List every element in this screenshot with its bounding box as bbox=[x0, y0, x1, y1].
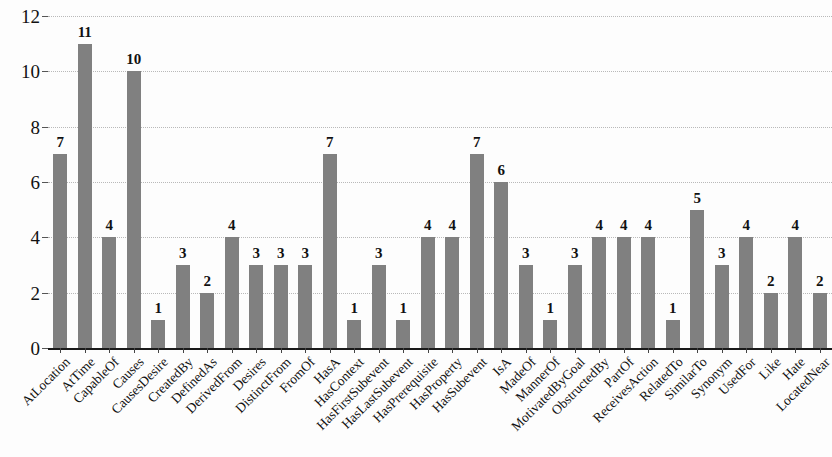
x-axis-tick-mark bbox=[550, 348, 551, 353]
bar[interactable] bbox=[53, 154, 67, 348]
bar-value-label: 1 bbox=[546, 301, 554, 316]
bar-value-label: 2 bbox=[816, 274, 824, 289]
bar[interactable] bbox=[200, 293, 214, 348]
plot-area: 024681012 711410132433371314476313444153… bbox=[48, 16, 832, 348]
bar[interactable] bbox=[249, 265, 263, 348]
x-axis-tick-mark bbox=[820, 348, 821, 353]
bar[interactable] bbox=[151, 320, 165, 348]
x-axis-tick-mark bbox=[134, 348, 135, 353]
x-axis-tick-mark bbox=[85, 348, 86, 353]
x-axis-tick-mark bbox=[330, 348, 331, 353]
bar[interactable] bbox=[543, 320, 557, 348]
y-axis-tick-label: 2 bbox=[0, 284, 40, 303]
bar-slot: 4 bbox=[102, 16, 116, 348]
bar[interactable] bbox=[519, 265, 533, 348]
bar[interactable] bbox=[372, 265, 386, 348]
y-axis-tick-label: 4 bbox=[0, 228, 40, 247]
x-axis-tick-mark bbox=[673, 348, 674, 353]
bar[interactable] bbox=[739, 237, 753, 348]
bar-slot: 3 bbox=[568, 16, 582, 348]
bar-value-label: 4 bbox=[644, 218, 652, 233]
bar-slot: 4 bbox=[445, 16, 459, 348]
bar[interactable] bbox=[102, 237, 116, 348]
x-axis-tick-mark bbox=[477, 348, 478, 353]
x-axis-tick-mark bbox=[771, 348, 772, 353]
bar-slot: 2 bbox=[200, 16, 214, 348]
bar-slot: 4 bbox=[641, 16, 655, 348]
bar[interactable] bbox=[788, 237, 802, 348]
x-axis-tick-mark bbox=[183, 348, 184, 353]
bar-slot: 3 bbox=[298, 16, 312, 348]
bar[interactable] bbox=[445, 237, 459, 348]
bar[interactable] bbox=[592, 237, 606, 348]
bar-slot: 11 bbox=[78, 16, 92, 348]
bar-value-label: 3 bbox=[252, 246, 260, 261]
x-axis-tick-mark bbox=[207, 348, 208, 353]
bar[interactable] bbox=[715, 265, 729, 348]
bar-value-label: 3 bbox=[522, 246, 530, 261]
bar[interactable] bbox=[127, 71, 141, 348]
x-axis-tick-mark bbox=[354, 348, 355, 353]
bar-slot: 7 bbox=[323, 16, 337, 348]
y-axis-tick-label: 6 bbox=[0, 173, 40, 192]
bar-slot: 4 bbox=[617, 16, 631, 348]
bar-slot: 4 bbox=[592, 16, 606, 348]
bar-slot: 4 bbox=[739, 16, 753, 348]
x-axis-tick-mark bbox=[624, 348, 625, 353]
bar[interactable] bbox=[78, 44, 92, 348]
bar-value-label: 3 bbox=[375, 246, 383, 261]
bar[interactable] bbox=[176, 265, 190, 348]
x-axis-tick-mark bbox=[403, 348, 404, 353]
y-axis-tick-label: 12 bbox=[0, 7, 40, 26]
bar-value-label: 3 bbox=[277, 246, 285, 261]
bar-slot: 4 bbox=[788, 16, 802, 348]
bar-slot: 4 bbox=[225, 16, 239, 348]
bar-value-label: 3 bbox=[571, 246, 579, 261]
x-axis-tick-mark bbox=[232, 348, 233, 353]
bar-value-label: 4 bbox=[105, 218, 113, 233]
bar[interactable] bbox=[568, 265, 582, 348]
bar[interactable] bbox=[396, 320, 410, 348]
x-axis-tick-mark bbox=[281, 348, 282, 353]
bar[interactable] bbox=[298, 265, 312, 348]
bar-value-label: 7 bbox=[473, 135, 481, 150]
bars-layer: 7114101324333713144763134441534242 bbox=[48, 16, 832, 348]
bar-slot: 4 bbox=[421, 16, 435, 348]
x-axis-tick-mark bbox=[501, 348, 502, 353]
bar[interactable] bbox=[274, 265, 288, 348]
bar[interactable] bbox=[494, 182, 508, 348]
bar[interactable] bbox=[421, 237, 435, 348]
bar-slot: 5 bbox=[690, 16, 704, 348]
x-axis-tick-mark bbox=[795, 348, 796, 353]
bar[interactable] bbox=[666, 320, 680, 348]
bar-value-label: 4 bbox=[620, 218, 628, 233]
bar[interactable] bbox=[813, 293, 827, 348]
bar[interactable] bbox=[347, 320, 361, 348]
bar-value-label: 1 bbox=[350, 301, 358, 316]
x-axis-tick-mark bbox=[575, 348, 576, 353]
bar[interactable] bbox=[470, 154, 484, 348]
x-axis-tick-mark bbox=[526, 348, 527, 353]
x-axis-tick-mark bbox=[428, 348, 429, 353]
bar[interactable] bbox=[617, 237, 631, 348]
bar[interactable] bbox=[225, 237, 239, 348]
bar-value-label: 1 bbox=[154, 301, 162, 316]
bar-value-label: 6 bbox=[497, 163, 505, 178]
bar-slot: 3 bbox=[715, 16, 729, 348]
bar[interactable] bbox=[641, 237, 655, 348]
x-axis: AtLocationAtTimeCapableOfCausesCausesDes… bbox=[48, 348, 832, 457]
bar-slot: 1 bbox=[543, 16, 557, 348]
bar-slot: 6 bbox=[494, 16, 508, 348]
x-axis-tick-mark bbox=[256, 348, 257, 353]
bar-value-label: 4 bbox=[742, 218, 750, 233]
bar-value-label: 3 bbox=[301, 246, 309, 261]
bar-slot: 3 bbox=[249, 16, 263, 348]
bar[interactable] bbox=[764, 293, 778, 348]
bar-value-label: 2 bbox=[203, 274, 211, 289]
x-axis-tick-mark bbox=[379, 348, 380, 353]
bar-value-label: 4 bbox=[595, 218, 603, 233]
bar[interactable] bbox=[690, 210, 704, 348]
x-axis-tick-mark bbox=[746, 348, 747, 353]
bar[interactable] bbox=[323, 154, 337, 348]
bar-value-label: 11 bbox=[78, 25, 92, 40]
